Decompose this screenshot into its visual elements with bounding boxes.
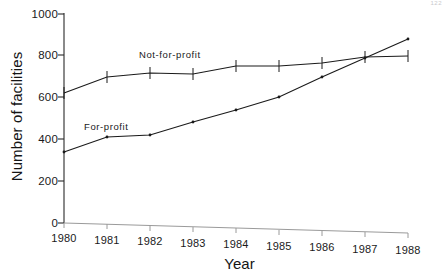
x-axis-ticks <box>64 223 408 238</box>
chart-plot-area <box>0 0 445 278</box>
chart-figure: 122 Number of facilities Year 1000 800 6… <box>0 0 445 278</box>
series-markers-not-for-profit <box>64 50 408 99</box>
series-line-for-profit <box>64 39 408 152</box>
series-markers-for-profit <box>63 38 410 154</box>
y-axis-ticks <box>58 14 64 223</box>
